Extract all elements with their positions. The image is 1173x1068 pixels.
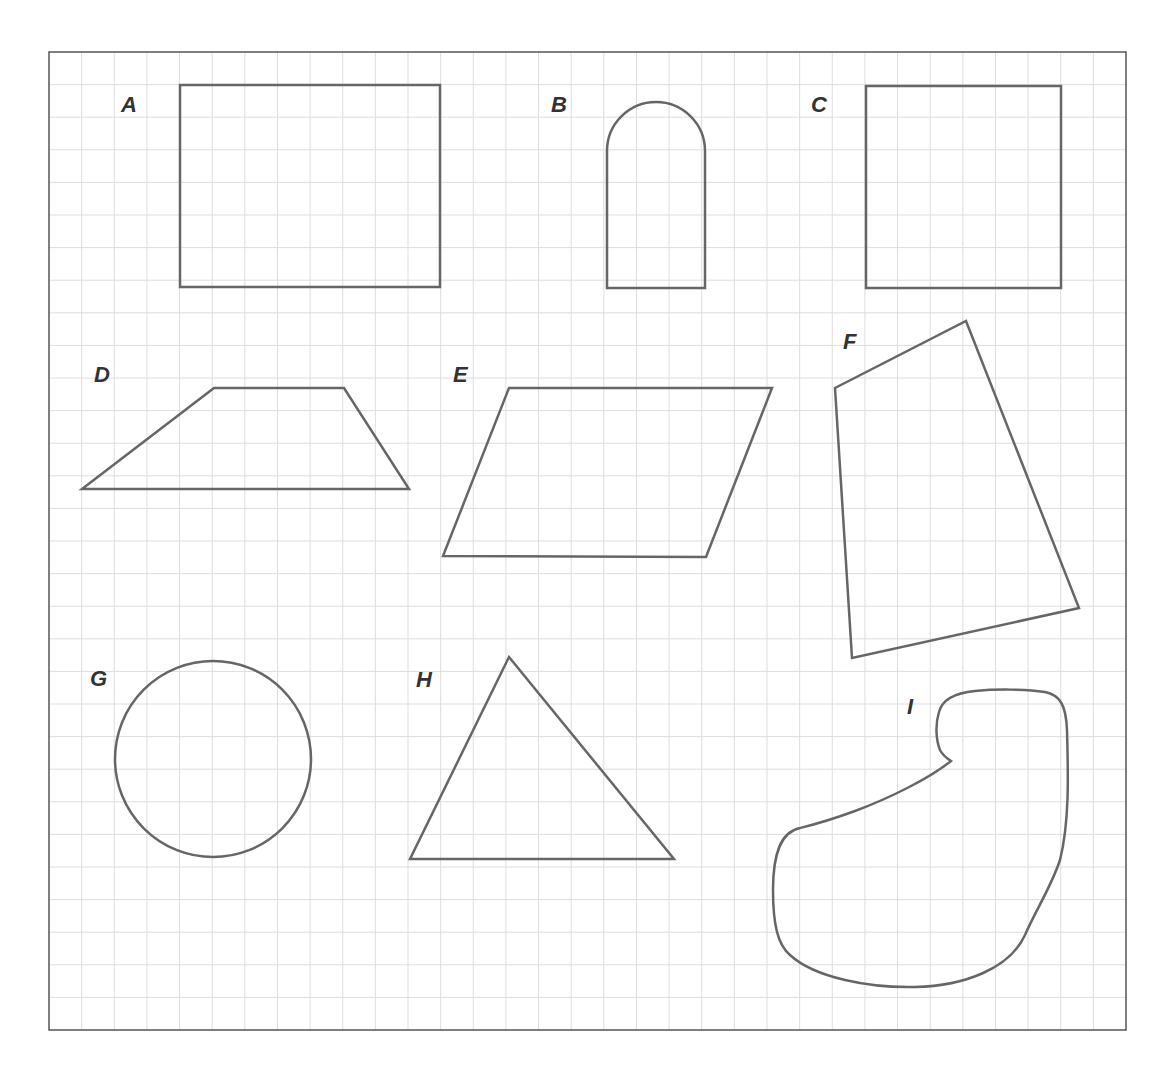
shape-label-g: G (90, 666, 107, 691)
grid-lines (49, 52, 1126, 1030)
shapes-figure: A B C D E F G H I (0, 0, 1173, 1068)
parallelogram-shape (443, 388, 772, 557)
shape-a: A (120, 85, 440, 287)
shape-f: F (835, 321, 1079, 658)
shape-e: E (443, 362, 772, 557)
quadrilateral-shape (835, 321, 1079, 658)
shape-b: B (551, 92, 705, 288)
shape-label-e: E (453, 362, 469, 387)
shape-i: I (773, 690, 1068, 987)
shape-label-b: B (551, 92, 567, 117)
trapezoid-shape (82, 388, 409, 489)
shape-label-h: H (416, 667, 433, 692)
square-shape (866, 86, 1061, 288)
shape-h: H (410, 657, 674, 859)
shape-label-i: I (907, 694, 914, 719)
triangle-shape (410, 657, 674, 859)
circle-shape (115, 661, 311, 857)
shape-label-c: C (811, 92, 828, 117)
shape-label-f: F (843, 329, 857, 354)
shape-c: C (811, 86, 1061, 288)
shape-d: D (82, 362, 409, 489)
shape-label-d: D (94, 362, 110, 387)
arch-shape (607, 102, 705, 288)
irregular-curve-shape (773, 690, 1068, 987)
shape-label-a: A (120, 92, 137, 117)
